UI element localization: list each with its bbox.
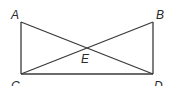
label-E: E — [81, 52, 90, 66]
label-D: D — [154, 79, 163, 86]
geometry-diagram: A B C D E — [0, 0, 174, 86]
label-A: A — [10, 8, 19, 22]
label-C: C — [11, 79, 20, 86]
label-B: B — [156, 8, 164, 22]
